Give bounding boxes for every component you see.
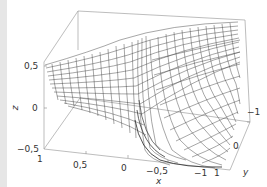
z-tick-label: 0 [32, 103, 38, 113]
x-tick-label: −1 [194, 168, 207, 178]
y-tick-label: −1 [247, 107, 260, 117]
z-tick-label: −0,5 [17, 144, 39, 154]
surface-mesh [45, 22, 240, 168]
y-tick-label: 1 [214, 168, 220, 178]
x-tick-label: 1 [37, 154, 43, 164]
plot-box [44, 11, 250, 170]
x-tick-label: 0,5 [73, 160, 87, 170]
z-tick-label: 0,5 [24, 61, 38, 71]
z-axis-label: z [10, 106, 20, 111]
x-tick-label: 0 [121, 163, 127, 173]
x-axis-label: x [156, 176, 161, 186]
y-axis-label: y [243, 167, 248, 177]
y-tick-label: 0 [233, 141, 239, 151]
x-tick-label: −0,5 [146, 166, 168, 176]
